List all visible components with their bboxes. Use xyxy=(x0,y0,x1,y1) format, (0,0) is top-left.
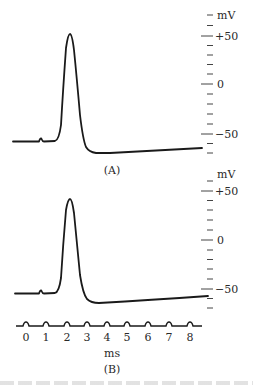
time-marker: 0 1 2 3 4 5 6 7 8 ms xyxy=(16,322,202,360)
panel-a-voltage-scale: mV +50 0 −50 xyxy=(201,9,238,153)
time-label-1: 1 xyxy=(43,331,50,344)
panel-b-label: (B) xyxy=(104,363,121,376)
time-label-8: 8 xyxy=(187,331,194,344)
panel-b-tick-label-0: 0 xyxy=(217,234,224,247)
action-potential-figure: mV +50 0 −50 (A) mV +50 xyxy=(0,0,253,385)
panel-a-trace xyxy=(13,34,202,153)
time-label-4: 4 xyxy=(104,331,111,344)
panel-a-tick-label-minus50: −50 xyxy=(215,128,238,141)
panel-a-label: (A) xyxy=(104,164,121,177)
time-marker-line xyxy=(16,322,202,326)
panel-a: mV +50 0 −50 (A) xyxy=(13,9,238,177)
time-label-6: 6 xyxy=(145,331,152,344)
panel-a-unit-label: mV xyxy=(217,9,236,22)
panel-a-tick-label-plus50: +50 xyxy=(215,30,238,43)
time-label-7: 7 xyxy=(166,331,173,344)
panel-a-tick-label-0: 0 xyxy=(217,78,224,91)
panel-b-unit-label: mV xyxy=(217,168,236,181)
time-unit-label: ms xyxy=(104,347,120,360)
cropped-caption-fragment xyxy=(0,381,253,385)
panel-b-tick-label-plus50: +50 xyxy=(215,185,238,198)
panel-b: mV +50 0 −50 0 1 2 3 4 5 xyxy=(15,168,238,376)
panel-b-voltage-scale: mV +50 0 −50 xyxy=(201,168,238,308)
panel-b-trace xyxy=(15,199,208,303)
panel-b-tick-label-minus50: −50 xyxy=(215,283,238,296)
time-label-3: 3 xyxy=(84,331,91,344)
time-label-2: 2 xyxy=(64,331,71,344)
time-label-5: 5 xyxy=(124,331,131,344)
time-label-0: 0 xyxy=(23,331,30,344)
